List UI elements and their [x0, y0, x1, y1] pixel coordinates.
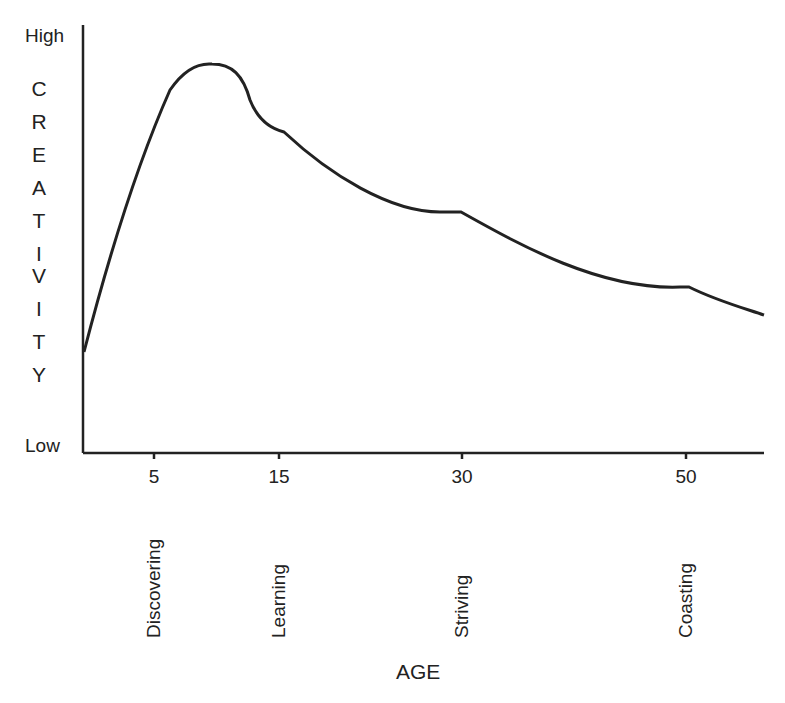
- stage-label-coasting: Coasting: [675, 563, 697, 638]
- ylabel-letter: T: [27, 330, 51, 354]
- x-tick-label-5: 5: [124, 466, 184, 488]
- stage-label-striving: Striving: [451, 575, 473, 638]
- ylabel-letter: C: [27, 77, 51, 101]
- x-tick-label-15: 15: [249, 466, 309, 488]
- ylabel-letter: A: [27, 176, 51, 200]
- y-high-label: High: [25, 25, 64, 47]
- ylabel-letter: R: [27, 110, 51, 134]
- ylabel-letter: I: [27, 242, 51, 266]
- ylabel-letter: I: [27, 297, 51, 321]
- stage-label-learning: Learning: [268, 564, 290, 638]
- ylabel-letter: T: [27, 209, 51, 233]
- ylabel-letter: E: [27, 143, 51, 167]
- x-tick-label-50: 50: [656, 466, 716, 488]
- x-tick-label-30: 30: [432, 466, 492, 488]
- creativity-chart: [0, 0, 785, 703]
- stage-label-discovering: Discovering: [143, 539, 165, 638]
- y-low-label: Low: [25, 435, 60, 457]
- ylabel-letter: Y: [27, 363, 51, 387]
- x-axis-title: AGE: [396, 660, 440, 684]
- creativity-curve: [84, 64, 764, 352]
- ylabel-letter: V: [27, 264, 51, 288]
